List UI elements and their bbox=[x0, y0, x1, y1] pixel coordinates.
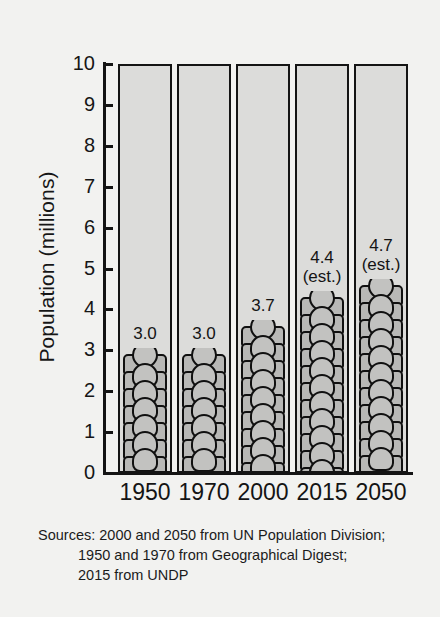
value-label-1970: 3.0 bbox=[169, 324, 239, 343]
person-icon bbox=[182, 450, 226, 471]
source-note: Sources: 2000 and 2050 from UN Populatio… bbox=[38, 525, 410, 585]
value-label-number: 4.4 bbox=[310, 248, 334, 267]
person-head bbox=[132, 448, 158, 471]
y-tick-label-3: 3 bbox=[55, 339, 95, 359]
y-tick-9 bbox=[104, 104, 113, 107]
bar-column-1950[interactable] bbox=[118, 64, 172, 473]
y-tick-label-0: 0 bbox=[55, 462, 95, 482]
y-tick-label-4: 4 bbox=[55, 298, 95, 318]
value-label-2050: 4.7(est.) bbox=[346, 236, 416, 274]
y-tick-0 bbox=[104, 472, 113, 475]
value-label-estimate: (est.) bbox=[362, 255, 401, 274]
value-label-number: 3.7 bbox=[251, 296, 275, 315]
source-line-3: 2015 from UNDP bbox=[38, 565, 410, 585]
value-label-number: 4.7 bbox=[369, 236, 393, 255]
bar-column-1970[interactable] bbox=[177, 64, 231, 473]
y-tick-label-8: 8 bbox=[55, 135, 95, 155]
person-head bbox=[191, 448, 217, 471]
y-tick-5 bbox=[104, 268, 113, 271]
pictogram-stack bbox=[182, 348, 226, 471]
person-icon bbox=[300, 461, 344, 471]
y-tick-label-10: 10 bbox=[55, 53, 95, 73]
person-head bbox=[250, 454, 276, 471]
y-tick-label-7: 7 bbox=[55, 176, 95, 196]
person-icon bbox=[241, 456, 285, 471]
value-label-number: 3.0 bbox=[133, 324, 157, 343]
y-tick-label-6: 6 bbox=[55, 217, 95, 237]
person-head bbox=[309, 459, 335, 471]
pictogram-stack bbox=[300, 291, 344, 471]
pictogram-stack bbox=[123, 348, 167, 471]
pictogram-stack bbox=[359, 279, 403, 471]
bar-column-2000[interactable] bbox=[236, 64, 290, 473]
population-pictogram-chart: Population (millions) 012345678910 3.03.… bbox=[0, 0, 440, 617]
y-tick-10 bbox=[104, 63, 113, 66]
y-tick-label-1: 1 bbox=[55, 421, 95, 441]
person-head bbox=[368, 447, 394, 471]
person-icon bbox=[359, 449, 403, 471]
y-tick-1 bbox=[104, 431, 113, 434]
y-tick-2 bbox=[104, 390, 113, 393]
value-label-estimate: (est.) bbox=[303, 267, 342, 286]
source-line-1: Sources: 2000 and 2050 from UN Populatio… bbox=[38, 525, 410, 545]
y-tick-label-9: 9 bbox=[55, 94, 95, 114]
y-tick-4 bbox=[104, 308, 113, 311]
source-line-2: 1950 and 1970 from Geographical Digest; bbox=[38, 545, 410, 565]
y-tick-6 bbox=[104, 227, 113, 230]
y-tick-7 bbox=[104, 186, 113, 189]
pictogram-stack bbox=[241, 320, 285, 471]
y-tick-label-2: 2 bbox=[55, 380, 95, 400]
value-label-number: 3.0 bbox=[192, 324, 216, 343]
y-tick-label-5: 5 bbox=[55, 258, 95, 278]
y-tick-8 bbox=[104, 145, 113, 148]
value-label-2000: 3.7 bbox=[228, 296, 298, 315]
x-axis-label-2050: 2050 bbox=[343, 479, 419, 506]
y-tick-3 bbox=[104, 349, 113, 352]
person-icon bbox=[123, 450, 167, 471]
